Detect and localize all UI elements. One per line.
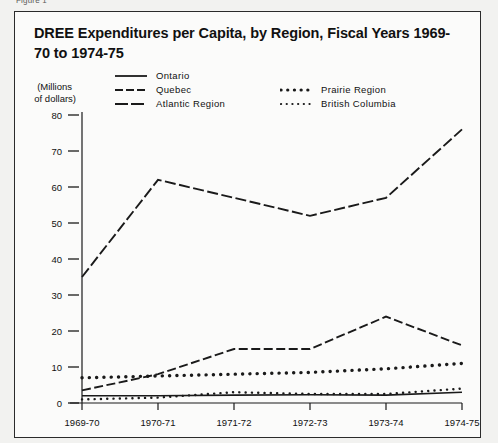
- legend-item-prairie-region[interactable]: Prairie Region: [280, 83, 396, 97]
- legend-label-prairie-region: Prairie Region: [321, 83, 386, 97]
- svg-text:60: 60: [51, 182, 62, 193]
- legend-item-atlantic-region[interactable]: Atlantic Region: [115, 97, 225, 111]
- page-title: DREE Expenditures per Capita, by Region,…: [34, 23, 454, 63]
- legend-item-british-columbia[interactable]: British Columbia: [280, 97, 396, 111]
- axis-lines: [70, 112, 462, 403]
- series-line-quebec: [82, 129, 462, 277]
- medium-dash-line-icon: [115, 99, 147, 109]
- series-lines: [82, 129, 462, 399]
- svg-text:80: 80: [51, 110, 62, 121]
- legend-left-column: Ontario Quebec Atlantic Region: [115, 69, 225, 111]
- series-line-atlantic-region: [82, 317, 462, 391]
- y-axis-tick-marks: [68, 115, 79, 403]
- svg-text:1970-71: 1970-71: [141, 417, 176, 428]
- series-line-ontario: [82, 392, 462, 396]
- svg-text:of dollars): of dollars): [34, 93, 76, 104]
- legend-item-ontario[interactable]: Ontario: [115, 69, 225, 83]
- svg-text:10: 10: [51, 362, 62, 373]
- x-axis-tick-labels: 1969-701970-711971-721972-731973-741974-…: [65, 417, 480, 428]
- legend-label-quebec: Quebec: [156, 83, 191, 97]
- svg-text:70: 70: [51, 146, 62, 157]
- svg-text:40: 40: [51, 254, 62, 265]
- figure-caption: Figure 1: [16, 0, 47, 5]
- large-dotted-line-icon: [280, 85, 312, 95]
- legend-label-ontario: Ontario: [156, 69, 190, 83]
- series-line-prairie-region: [82, 363, 462, 377]
- small-dotted-line-icon: [280, 99, 312, 109]
- svg-text:1971-72: 1971-72: [217, 417, 252, 428]
- long-dash-line-icon: [115, 85, 147, 95]
- svg-text:1972-73: 1972-73: [293, 417, 328, 428]
- svg-text:1969-70: 1969-70: [65, 417, 100, 428]
- svg-text:1973-74: 1973-74: [369, 417, 404, 428]
- y-axis-title: (Millionsof dollars): [34, 81, 76, 104]
- legend-item-quebec[interactable]: Quebec: [115, 83, 225, 97]
- chart-frame: DREE Expenditures per Capita, by Region,…: [14, 11, 481, 438]
- svg-text:1974-75: 1974-75: [445, 417, 480, 428]
- line-chart-canvas: (Millionsof dollars) 01020304050607080 1…: [15, 12, 482, 439]
- plot-area: (Millionsof dollars) 01020304050607080 1…: [15, 12, 482, 439]
- legend-right-column: Prairie Region British Columbia: [280, 83, 396, 111]
- svg-text:30: 30: [51, 290, 62, 301]
- legend-label-british-columbia: British Columbia: [321, 97, 396, 111]
- series-line-british-columbia: [82, 389, 462, 400]
- solid-line-icon: [115, 71, 147, 81]
- svg-text:20: 20: [51, 326, 62, 337]
- svg-text:(Millions: (Millions: [37, 81, 72, 92]
- y-axis-tick-labels: 01020304050607080: [51, 110, 62, 409]
- svg-text:0: 0: [57, 398, 62, 409]
- x-axis-tick-marks: [82, 403, 462, 410]
- legend-label-atlantic-region: Atlantic Region: [156, 97, 225, 111]
- svg-text:50: 50: [51, 218, 62, 229]
